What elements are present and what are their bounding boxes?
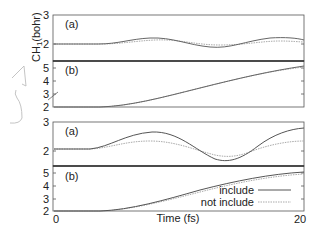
y-tick-4: 4 [43,75,49,87]
top-figure: CH1(bohr) 3 2 (a) 5 4 3 2 [30,9,304,113]
top-panel-b: 5 4 3 2 (b) [43,61,304,113]
y-tick-2: 2 [43,145,49,157]
x-tick-20: 20 [294,213,306,225]
series-not-include [54,174,304,211]
legend-label-include: include [219,184,254,196]
top-panel-a: 3 2 (a) [43,9,304,61]
series-include [54,38,304,48]
y-tick-2: 2 [43,38,49,50]
y-tick-5: 5 [43,167,49,179]
x-tick-0: 0 [53,213,59,225]
panel-label-b: (b) [65,64,78,76]
bottom-figure: 3 2 (a) 5 4 3 2 (b) include [43,116,306,225]
legend: include not include [201,184,291,208]
bottom-panel-b: 5 4 3 2 (b) include not include [43,166,304,217]
y-tick-3: 3 [43,193,49,205]
panel-frame [53,122,304,166]
y-tick-3: 3 [43,116,49,128]
y-axis-title: CH1(bohr) [30,12,44,62]
hand-drawn-annotation [10,66,58,123]
y-tick-2: 2 [43,101,49,113]
panel-frame [53,166,304,211]
panel-label-a: (a) [65,125,78,137]
bottom-panel-a: 3 2 (a) [43,116,304,166]
y-tick-5: 5 [43,62,49,74]
y-tick-2: 2 [43,205,49,217]
panel-label-b: (b) [65,170,78,182]
y-tick-3: 3 [43,9,49,21]
x-axis-title: Time (fs) [157,212,200,224]
chart-figure: CH1(bohr) 3 2 (a) 5 4 3 2 [0,0,321,232]
panel-frame [53,61,304,107]
legend-label-not-include: not include [201,196,254,208]
series-include [54,66,304,107]
panel-label-a: (a) [65,18,78,30]
y-tick-4: 4 [43,180,49,192]
y-tick-3: 3 [43,88,49,100]
